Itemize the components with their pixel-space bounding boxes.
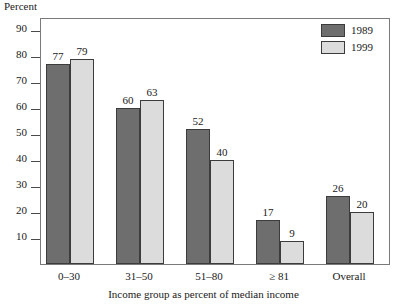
legend-label: 1989 [351,25,373,36]
bar-value-label: 52 [193,116,204,127]
bar[interactable] [256,220,280,264]
x-axis-tick-label: ≥ 81 [269,270,289,282]
legend-swatch [321,24,345,37]
y-axis-tick-mark [31,135,40,136]
legend-item[interactable]: 1999 [321,41,373,54]
bar-value-label: 26 [333,183,344,194]
bar-value-label: 40 [217,147,228,158]
y-axis-tick-label: 80 [16,49,27,60]
y-axis-tick-label: 60 [16,101,27,112]
y-axis-tick-mark [31,161,40,162]
bar-group: 7779 [46,19,94,264]
bar-group: 6063 [116,19,164,264]
y-axis-tick-label: 30 [16,179,27,190]
bar-value-label: 20 [357,199,368,210]
x-axis-tick-label: 0–30 [58,270,80,282]
y-axis-tick-label: 10 [16,231,27,242]
x-axis-tick-label: Overall [333,270,366,282]
bar-value-label: 17 [263,207,274,218]
bar-value-label: 79 [77,46,88,57]
y-axis-tick-mark [31,83,40,84]
bar[interactable] [70,59,94,264]
bar[interactable] [280,241,304,264]
legend-swatch [321,41,345,54]
bar-value-label: 60 [123,95,134,106]
x-axis-tick-label: 31–50 [125,270,153,282]
bar-value-label: 9 [289,228,295,239]
bar[interactable] [186,129,210,264]
y-axis-tick-label: 40 [16,153,27,164]
y-axis-tick-mark [31,31,40,32]
chart-legend: 19891999 [321,24,373,54]
bar[interactable] [140,100,164,264]
y-axis-tick-mark [31,187,40,188]
bar[interactable] [326,196,350,264]
bar-group: 5240 [186,19,234,264]
y-axis-tick-mark [31,109,40,110]
bar[interactable] [350,212,374,264]
bar[interactable] [210,160,234,264]
bar[interactable] [46,64,70,264]
legend-item[interactable]: 1989 [321,24,373,37]
y-axis-title: Percent [4,0,37,12]
x-axis-title: Income group as percent of median income [0,288,407,300]
y-axis-tick-label: 70 [16,75,27,86]
legend-label: 1999 [351,42,373,53]
plot-frame: 7779606352401792620 [40,18,390,265]
y-axis-tick-mark [31,239,40,240]
y-axis-tick-label: 50 [16,127,27,138]
x-axis-tick-label: 51–80 [195,270,223,282]
y-axis-tick-mark [31,57,40,58]
bar-group: 179 [256,19,304,264]
bar-chart: Percent 7779606352401792620 102030405060… [0,0,407,305]
y-axis-tick-label: 90 [16,23,27,34]
plot-area: 7779606352401792620 [41,19,389,264]
bar-value-label: 77 [53,51,64,62]
y-axis-tick-mark [31,213,40,214]
bar[interactable] [116,108,140,264]
bar-group: 2620 [326,19,374,264]
bar-value-label: 63 [147,87,158,98]
y-axis-tick-label: 20 [16,205,27,216]
